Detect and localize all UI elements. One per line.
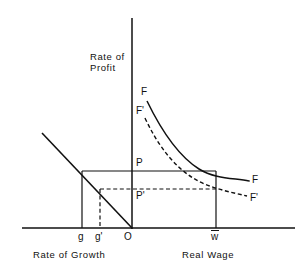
right-quadrant-title: Real Wage — [182, 250, 234, 261]
vertical-axis-title: Rate of Profit — [90, 52, 125, 74]
diagram-canvas — [0, 0, 307, 273]
vertical-axis-title-line2: Profit — [90, 63, 125, 74]
point-label-P: P — [136, 157, 143, 169]
tick-label-origin: O — [124, 231, 132, 243]
curve-F-solid — [147, 101, 249, 181]
curve-label-F-right: F — [252, 174, 258, 186]
curve-label-F-prime-top: F' — [136, 105, 144, 117]
growth-line — [42, 133, 132, 228]
point-label-P-prime: P' — [136, 190, 145, 202]
tick-label-g: g — [78, 231, 84, 243]
curve-label-F-top: F — [141, 86, 147, 98]
wage-profit-frontier-figure: Rate of Profit F F' F F' P P' g g' O w R… — [0, 0, 307, 273]
curve-F-prime-dashed — [145, 118, 247, 196]
tick-label-w-bar: w — [211, 231, 218, 243]
tick-label-g-prime: g' — [95, 231, 102, 243]
w-bar-glyph: w — [211, 231, 218, 243]
curve-label-F-prime-right: F' — [250, 192, 258, 204]
left-quadrant-title: Rate of Growth — [33, 250, 105, 261]
